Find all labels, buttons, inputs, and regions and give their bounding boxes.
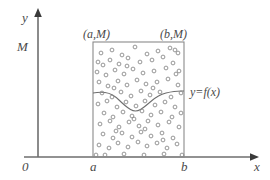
x-tick-label-a: a bbox=[90, 160, 97, 173]
sample-point bbox=[120, 53, 124, 57]
sample-point bbox=[107, 146, 111, 150]
sample-point bbox=[173, 105, 177, 109]
sample-point bbox=[162, 152, 166, 156]
y-axis-arrow-icon bbox=[34, 8, 42, 17]
y-axis-label: y bbox=[22, 11, 28, 24]
sample-point bbox=[161, 138, 165, 142]
sample-point bbox=[126, 145, 130, 149]
sample-point bbox=[161, 55, 165, 59]
sample-point bbox=[97, 143, 101, 147]
sample-point bbox=[121, 110, 125, 114]
sample-point bbox=[159, 110, 163, 114]
y-axis bbox=[34, 8, 42, 157]
sample-point bbox=[171, 61, 175, 65]
sample-point bbox=[115, 105, 119, 109]
sample-point bbox=[114, 129, 118, 133]
sample-point bbox=[176, 51, 180, 55]
sample-point bbox=[96, 102, 100, 106]
sample-point bbox=[169, 95, 173, 99]
origin-label: 0 bbox=[22, 160, 29, 173]
sample-point bbox=[145, 144, 149, 148]
sample-point bbox=[143, 127, 147, 131]
sample-point bbox=[133, 45, 137, 49]
sample-point bbox=[137, 124, 141, 128]
sample-point bbox=[117, 62, 121, 66]
sample-point bbox=[164, 66, 168, 70]
sample-point bbox=[143, 99, 147, 103]
sample-point bbox=[96, 60, 100, 64]
sample-point bbox=[101, 63, 105, 67]
sample-point bbox=[113, 68, 117, 72]
sample-point bbox=[111, 136, 115, 140]
sample-point bbox=[171, 136, 175, 140]
sample-point bbox=[160, 131, 164, 135]
sample-point bbox=[158, 90, 162, 94]
sample-point bbox=[152, 69, 156, 73]
sample-point bbox=[173, 48, 177, 52]
sample-point bbox=[105, 99, 109, 103]
sample-point bbox=[98, 122, 102, 126]
sample-point bbox=[131, 67, 135, 71]
sample-point bbox=[120, 131, 124, 135]
curve-label: y=f(x) bbox=[190, 86, 220, 98]
sample-point bbox=[110, 48, 114, 52]
sample-point bbox=[129, 94, 133, 98]
function-curve bbox=[93, 91, 184, 111]
sample-point bbox=[102, 111, 106, 115]
sample-point bbox=[108, 58, 112, 62]
sample-point bbox=[150, 58, 154, 62]
sample-point bbox=[156, 49, 160, 53]
sample-point bbox=[149, 134, 153, 138]
sample-point bbox=[104, 73, 108, 77]
sample-point bbox=[134, 104, 138, 108]
corner-label-top-right: (b,M) bbox=[160, 28, 187, 40]
sample-point bbox=[127, 120, 131, 124]
sample-point bbox=[168, 46, 172, 50]
sample-point bbox=[132, 117, 136, 121]
sample-point bbox=[163, 100, 167, 104]
sample-point bbox=[149, 113, 153, 117]
sample-point bbox=[177, 69, 181, 73]
y-tick-label-M: M bbox=[17, 40, 28, 53]
sample-point bbox=[140, 109, 144, 113]
sample-point bbox=[145, 52, 149, 56]
sample-point bbox=[174, 72, 178, 76]
sample-point bbox=[175, 142, 179, 146]
sample-point bbox=[117, 125, 121, 129]
sample-point bbox=[179, 91, 183, 95]
sample-point bbox=[165, 146, 169, 150]
sample-point bbox=[138, 60, 142, 64]
sample-point bbox=[179, 111, 183, 115]
curve-path bbox=[93, 91, 184, 111]
sample-point bbox=[144, 82, 148, 86]
sample-point bbox=[122, 152, 126, 156]
sample-point bbox=[99, 51, 103, 55]
sample-point bbox=[116, 141, 120, 145]
sample-point bbox=[122, 72, 126, 76]
sample-point bbox=[146, 119, 150, 123]
sample-point bbox=[135, 78, 139, 82]
x-tick-label-b: b bbox=[181, 160, 188, 173]
sample-point bbox=[108, 119, 112, 123]
sample-point bbox=[148, 93, 152, 97]
sample-point bbox=[130, 135, 134, 139]
sample-point bbox=[155, 80, 159, 84]
sample-point bbox=[100, 91, 104, 95]
sample-point bbox=[139, 130, 143, 134]
sample-point bbox=[170, 115, 174, 119]
x-axis-label: x bbox=[254, 160, 260, 173]
sample-point bbox=[97, 80, 101, 84]
sample-point bbox=[125, 64, 129, 68]
sample-point bbox=[111, 115, 115, 119]
sample-point bbox=[95, 70, 99, 74]
sample-point bbox=[106, 84, 110, 88]
sample-point bbox=[101, 132, 105, 136]
sample-point bbox=[141, 71, 145, 75]
sample-point bbox=[136, 140, 140, 144]
sample-points bbox=[94, 45, 184, 157]
monte-carlo-figure: y M 0 a b x (a,M) (b,M) y=f(x) bbox=[0, 0, 270, 180]
sample-point bbox=[167, 120, 171, 124]
figure-canvas bbox=[0, 0, 270, 180]
sample-point bbox=[156, 123, 160, 127]
sample-point bbox=[166, 77, 170, 81]
